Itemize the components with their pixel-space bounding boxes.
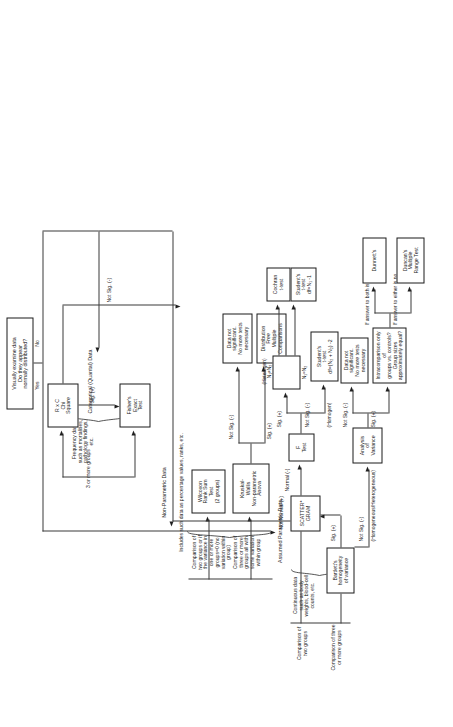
line-start-stem: [33, 362, 42, 363]
arrowhead-chi-sig: [114, 404, 119, 408]
line-no-down: [42, 230, 98, 231]
arrowhead-categorical: [95, 347, 99, 352]
line-chi-sig-down: [78, 404, 114, 405]
heading-np-three-groups: Comparison of three or more groups all w…: [232, 531, 261, 573]
line-no-to-np: [98, 230, 172, 231]
label-anova-not-sig: Not Sig. (-): [342, 387, 348, 427]
line-cat-to-chi: [62, 433, 63, 477]
node-students-t-n1[interactable]: Student's t-test df=N₁ -1: [290, 267, 316, 301]
line-bartlett-notsig-down: [354, 546, 368, 547]
line-chi-notsig: [62, 305, 63, 383]
line-np-in: [172, 231, 173, 521]
heading-parametric-desc: Continuous data such as body weights, bl…: [292, 573, 315, 617]
line-chi-notsig-down: [62, 304, 175, 305]
arrowhead-duncans: [407, 286, 411, 291]
line-intra-out: [389, 313, 390, 327]
arrowhead-data-not-sig-anova: [349, 386, 353, 391]
label-anova-sig: Sig. (+): [370, 393, 376, 427]
node-kruskal-wallis[interactable]: Kruskal- Wallis Non-parametric Anova: [232, 463, 269, 513]
node-anova[interactable]: Analysis of Variance: [352, 427, 382, 463]
arrowhead-intracomparison: [385, 386, 389, 391]
label-no: No: [34, 331, 40, 355]
arrowhead-fisher: [131, 430, 135, 435]
node-dunnetts[interactable]: Dunnett's: [362, 237, 386, 283]
label-not-sig-kw: Not Sig. (-): [228, 395, 234, 439]
flowchart-canvas: Visually examine data Do they appear nor…: [0, 0, 453, 727]
label-sig-kw: Sig. (+): [266, 399, 272, 439]
heading-p-two-groups: Comparison of two groups: [296, 623, 307, 663]
line-cat-to-fisher: [134, 433, 135, 477]
line-kw-out: [250, 443, 251, 463]
arrowhead-dunnetts: [371, 286, 375, 291]
heading-categorical-3plus: 3 or more groups: [85, 445, 91, 491]
node-fishers-exact[interactable]: Fisher's Exact Test: [119, 383, 150, 427]
node-data-not-sig-np[interactable]: Data not significant. No more tests nece…: [222, 313, 252, 363]
label-not-sig-bartlett: Not Sig. (-): [358, 501, 364, 541]
node-rxc-chi-square[interactable]: R x C Chi Square: [47, 383, 78, 427]
arrowhead-students-n1: [291, 304, 295, 309]
line-to-cochran: [278, 307, 279, 355]
line-kw-notsig: [238, 369, 239, 443]
node-start[interactable]: Visually examine data Do they appear nor…: [6, 317, 33, 409]
label-homogen: (Homogen): [326, 387, 332, 427]
node-f-test[interactable]: F Test: [288, 433, 314, 461]
node-duncans[interactable]: Duncan's Multiple Range Test: [396, 237, 424, 283]
arrowhead-n1n2: [283, 392, 287, 397]
line-np-divider: [188, 578, 272, 579]
line-np-to-wilcoxon: [208, 519, 209, 579]
node-students-t-pooled[interactable]: Student's t-test df=(N₂ + N₂) -2: [310, 331, 338, 381]
arrowhead-kw-notsig: [235, 366, 239, 371]
line-f-out: [300, 413, 301, 433]
node-wilcoxon[interactable]: Wilcoxon Rank Sum Test (2 groups): [191, 469, 225, 513]
line-p-three: [340, 593, 341, 623]
label-n1-eq-n2: N₁=N₂: [301, 355, 306, 389]
node-bartletts[interactable]: Bartlett's homogeneity of variance: [326, 547, 354, 593]
arrowhead-students-pooled: [321, 384, 325, 389]
label-sig-f: Sig. (+): [276, 397, 282, 427]
node-scattergram[interactable]: SCATTER* GRAM: [290, 495, 320, 531]
label-sig-bartlett: Sig. (+): [330, 511, 336, 541]
line-to-students-n1: [294, 307, 295, 355]
line-scatter-to-f: [300, 467, 301, 495]
line-to-duncans: [410, 289, 411, 313]
line-scatter-notnormal-up: [172, 520, 290, 521]
arrowhead-chi-notsig: [175, 304, 180, 308]
label-yes: Yes: [34, 373, 40, 397]
line-anova-sig: [388, 389, 389, 413]
line-anova-out: [367, 413, 368, 427]
arrowhead-nonparametric: [169, 521, 173, 526]
node-n1-n2-split[interactable]: [272, 355, 300, 389]
node-intracomparison[interactable]: Intracomparison only of groups vs. contr…: [372, 327, 406, 383]
label-not-sig-chi: Not Sig. (-): [106, 258, 112, 302]
arrowhead-cochran: [275, 304, 279, 309]
arrowhead-f-test: [297, 464, 301, 469]
label-sig-chi: Sig. (+): [89, 363, 95, 403]
heading-nonparametric-desc: Includes such data as percentage values,…: [178, 417, 184, 567]
node-cochran-t[interactable]: Cochran t-test: [266, 267, 290, 301]
line-categorical-bus: [62, 476, 134, 477]
heading-nonparametric-title: Non-Parametric Data: [160, 453, 166, 531]
heading-np-two-groups: Comparison of two groups or if the varia…: [191, 531, 231, 573]
label-not-sig-f: Not Sig. (-): [304, 387, 310, 427]
line-np-to-kw: [250, 519, 251, 579]
node-data-not-sig-anova[interactable]: Data not significant. No more tests nece…: [340, 337, 368, 383]
flowchart-page: Visually examine data Do they appear nor…: [0, 0, 453, 727]
heading-p-three-groups: Comparison of three or more groups: [330, 623, 341, 671]
line-bartlett-sig: [340, 515, 341, 547]
arrowhead-chi: [59, 430, 63, 435]
label-hetero-n1-ne-n2: (Heterogen) N₁≠N₂: [261, 351, 272, 391]
line-f-sig: [286, 395, 287, 413]
line-to-categorical: [98, 231, 99, 347]
line-yesno-bus: [42, 231, 43, 531]
line-anova-notsig: [352, 389, 353, 413]
line-to-dunnetts: [374, 289, 375, 313]
